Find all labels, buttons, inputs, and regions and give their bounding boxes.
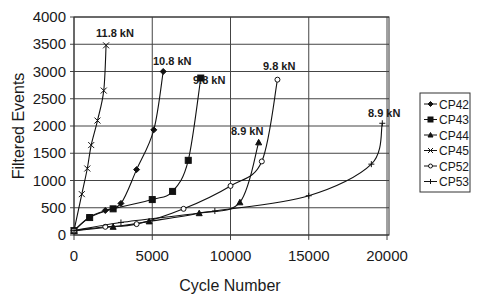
circle-marker-icon xyxy=(134,222,139,227)
y-axis-label: Filtered Events xyxy=(10,73,27,180)
circle-marker-icon xyxy=(181,206,186,211)
diamond-marker-icon xyxy=(134,167,140,173)
series-cp53 xyxy=(71,120,385,233)
legend: CP42CP43CP44CP45CP52CP53 xyxy=(420,93,470,192)
legend-label: CP53 xyxy=(439,175,469,189)
series-line xyxy=(74,45,106,230)
legend-label: CP45 xyxy=(439,144,469,158)
load-annotation: 9.8 kN xyxy=(193,74,225,86)
y-axis-ticks: 05001000150020002500300035004000 xyxy=(33,8,66,243)
load-annotation: 9.8 kN xyxy=(263,60,295,72)
y-tick-label: 3500 xyxy=(33,35,66,52)
plus-marker-icon xyxy=(306,193,312,199)
x-tick-label: 15000 xyxy=(288,247,330,264)
chart-canvas: 05001000150020002500300035004000 0500010… xyxy=(0,0,483,303)
x-axis-ticks: 05000100001500020000 xyxy=(70,247,408,264)
y-tick-label: 4000 xyxy=(33,8,66,25)
load-annotation: 8.9 kN xyxy=(231,125,263,137)
square-marker-icon xyxy=(149,197,155,203)
series-line xyxy=(74,72,163,231)
square-marker-icon xyxy=(87,215,93,221)
series-line xyxy=(74,123,382,230)
diamond-marker-icon xyxy=(160,69,166,75)
y-tick-label: 0 xyxy=(58,226,66,243)
y-tick-label: 1500 xyxy=(33,144,66,161)
x-tick-label: 5000 xyxy=(136,247,169,264)
y-tick-label: 1000 xyxy=(33,172,66,189)
y-tick-label: 2000 xyxy=(33,117,66,134)
diamond-marker-icon xyxy=(151,127,157,133)
load-annotation: 10.8 kN xyxy=(153,55,192,67)
legend-label: CP44 xyxy=(439,129,469,143)
load-annotations: 11.8 kN10.8 kN9.8 kN9.8 kN8.9 kN8.9 kN xyxy=(96,27,400,137)
plus-marker-icon xyxy=(379,120,385,126)
triangle-marker-icon xyxy=(256,139,262,145)
plus-marker-icon xyxy=(212,208,218,214)
x-axis-label: Cycle Number xyxy=(179,277,281,294)
square-marker-icon xyxy=(185,157,191,163)
legend-label: CP43 xyxy=(439,113,469,127)
circle-marker-icon xyxy=(259,159,264,164)
circle-marker-icon xyxy=(275,77,280,82)
x-tick-label: 0 xyxy=(70,247,78,264)
circle-marker-icon xyxy=(429,164,433,168)
y-tick-label: 3000 xyxy=(33,63,66,80)
plus-marker-icon xyxy=(118,219,124,225)
load-annotation: 8.9 kN xyxy=(368,107,400,119)
y-tick-label: 2500 xyxy=(33,90,66,107)
square-marker-icon xyxy=(428,117,433,122)
legend-label: CP52 xyxy=(439,160,469,174)
x-tick-label: 20000 xyxy=(366,247,408,264)
y-tick-label: 500 xyxy=(41,199,66,216)
square-marker-icon xyxy=(110,206,116,212)
load-annotation: 11.8 kN xyxy=(96,27,134,39)
legend-label: CP42 xyxy=(439,98,469,112)
x-tick-label: 10000 xyxy=(210,247,252,264)
circle-marker-icon xyxy=(228,183,233,188)
square-marker-icon xyxy=(170,188,176,194)
